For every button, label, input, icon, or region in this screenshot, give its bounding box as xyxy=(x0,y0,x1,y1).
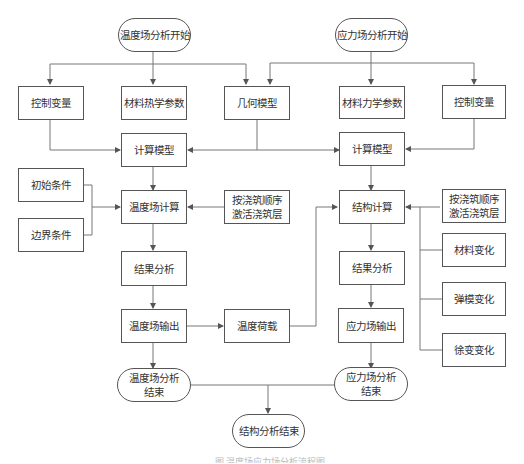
stress-analysis-end: 应力场分析 结束 xyxy=(334,367,408,401)
modulus-change: 弹模变化 xyxy=(442,282,506,316)
temp-analysis-start: 温度场分析开始 xyxy=(118,18,191,52)
pour-sequence-right: 按浇筑顺序 激活浇筑层 xyxy=(442,189,506,223)
temp-analysis-end: 温度场分析 结束 xyxy=(117,368,191,402)
result-analysis-right: 结果分析 xyxy=(339,251,405,285)
boundary-conditions: 边界条件 xyxy=(18,218,84,252)
stress-field-output: 应力场输出 xyxy=(338,308,404,343)
material-change: 材料变化 xyxy=(442,233,506,267)
temperature-load: 温度荷载 xyxy=(224,309,290,343)
result-analysis-left: 结果分析 xyxy=(121,251,187,286)
structural-analysis-end: 结构分析结束 xyxy=(232,414,305,448)
control-variable-right: 控制变量 xyxy=(442,85,506,119)
structural-calc: 结构计算 xyxy=(339,190,405,224)
calc-model-right: 计算模型 xyxy=(339,132,405,166)
pour-sequence-left: 按浇筑顺序 激活浇筑层 xyxy=(224,190,290,224)
material-mechanical-params: 材料力学参数 xyxy=(339,86,405,119)
calc-model-left: 计算模型 xyxy=(121,133,187,167)
geometry-model: 几何模型 xyxy=(224,86,290,120)
figure-caption: 图 温度场应力场分析流程图 xyxy=(180,453,360,463)
initial-conditions: 初始条件 xyxy=(18,168,84,202)
temperature-field-output: 温度场输出 xyxy=(121,309,187,343)
control-variable-left: 控制变量 xyxy=(18,86,84,120)
material-thermal-params: 材料热学参数 xyxy=(121,86,187,120)
stress-analysis-start: 应力场分析开始 xyxy=(335,18,408,52)
temperature-field-calc: 温度场计算 xyxy=(121,190,187,224)
creep-change: 徐变变化 xyxy=(442,333,506,367)
